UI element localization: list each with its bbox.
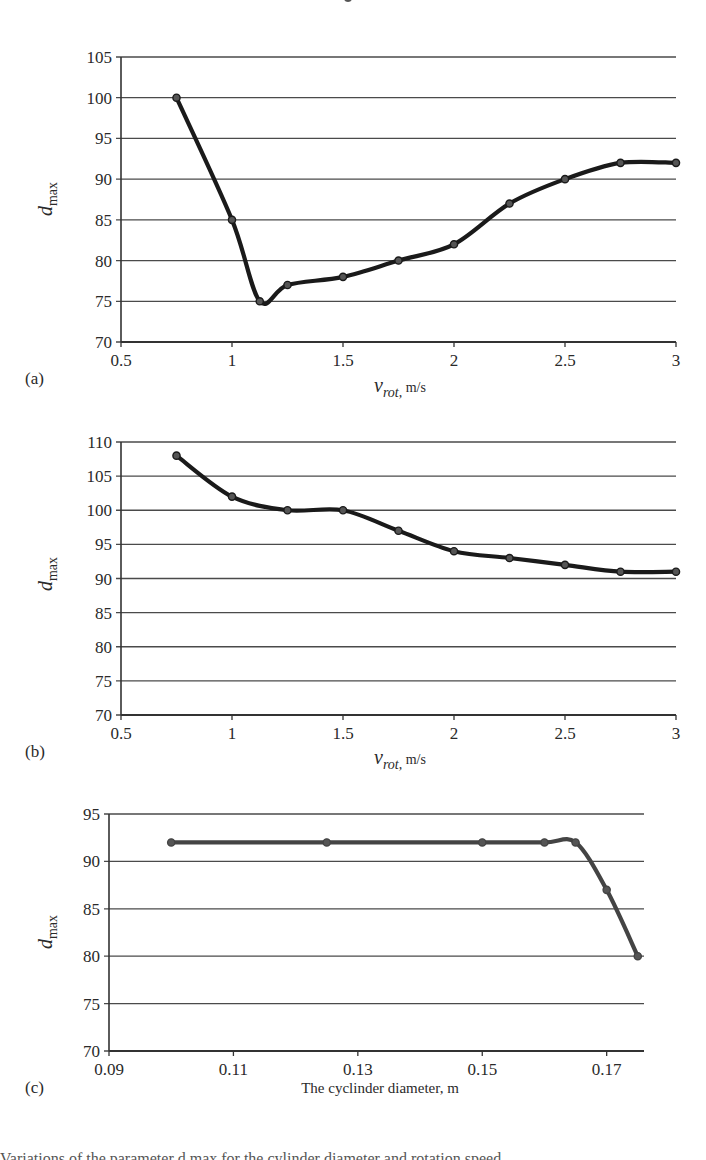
x-tick-label: 1	[228, 724, 237, 743]
data-point-marker	[506, 554, 513, 561]
data-point-marker	[541, 839, 548, 846]
y-tick-label: 75	[95, 292, 112, 311]
x-axis-title: The cyclinder diameter, m	[301, 1080, 459, 1096]
chart-panel-c: 7075808590950.090.110.130.150.17dmaxThe …	[25, 805, 644, 1097]
y-tick-label: 105	[87, 48, 113, 67]
panel-label: (b)	[25, 742, 45, 761]
x-axis-title: vrot, m/s	[374, 374, 426, 400]
data-point-marker	[339, 273, 346, 280]
chart-panel-a: 7075808590951001050.511.522.53dmaxvrot, …	[25, 48, 680, 400]
x-tick-label: 3	[672, 351, 681, 370]
data-point-marker	[339, 507, 346, 514]
panel-label: (c)	[25, 1078, 44, 1097]
x-tick-label: 3	[672, 724, 681, 743]
y-tick-label: 90	[83, 852, 100, 871]
y-tick-label: 110	[87, 433, 112, 452]
data-point-marker	[284, 281, 291, 288]
y-tick-label: 95	[95, 535, 112, 554]
data-point-marker	[603, 886, 610, 893]
data-point-marker	[450, 548, 457, 555]
panel-label: (a)	[25, 369, 44, 388]
data-point-marker	[395, 527, 402, 534]
y-tick-label: 85	[95, 211, 112, 230]
data-point-marker	[173, 94, 180, 101]
figure-caption-fragment: Variations of the parameter d max for th…	[0, 1150, 706, 1160]
x-tick-label: 0.17	[592, 1060, 622, 1079]
data-point-marker	[168, 839, 175, 846]
data-point-marker	[228, 216, 235, 223]
x-axis-title: vrot, m/s	[374, 746, 426, 772]
data-point-marker	[450, 241, 457, 248]
x-tick-label: 0.09	[94, 1060, 124, 1079]
y-axis-title: dmax	[34, 557, 60, 591]
x-tick-label: 0.11	[219, 1060, 248, 1079]
y-tick-label: 80	[95, 252, 112, 271]
x-tick-label: 1	[228, 351, 237, 370]
data-point-marker	[395, 257, 402, 264]
x-tick-label: 2	[450, 351, 459, 370]
y-tick-label: 90	[95, 570, 112, 589]
data-point-marker	[672, 568, 679, 575]
data-point-marker	[634, 953, 641, 960]
y-tick-label: 90	[95, 170, 112, 189]
y-axis-title: dmax	[34, 182, 60, 216]
x-tick-label: 0.5	[110, 351, 131, 370]
y-tick-label: 85	[83, 900, 100, 919]
y-tick-label: 95	[83, 805, 100, 824]
data-line	[171, 839, 638, 956]
chart-panel-b: 7075808590951001051100.511.522.53dmaxvro…	[25, 433, 680, 772]
y-tick-label: 100	[87, 501, 113, 520]
data-point-marker	[561, 561, 568, 568]
data-point-marker	[672, 159, 679, 166]
y-tick-label: 75	[83, 995, 100, 1014]
data-line	[177, 98, 677, 304]
data-point-marker	[479, 839, 486, 846]
x-tick-label: 1.5	[332, 351, 353, 370]
data-point-marker	[617, 159, 624, 166]
x-tick-label: 2.5	[554, 724, 575, 743]
data-point-marker	[323, 839, 330, 846]
data-point-marker	[617, 568, 624, 575]
data-point-marker	[256, 298, 263, 305]
y-tick-label: 70	[83, 1042, 100, 1061]
x-tick-label: 0.13	[343, 1060, 373, 1079]
x-tick-label: 2.5	[554, 351, 575, 370]
x-tick-label: 2	[450, 724, 459, 743]
y-tick-label: 75	[95, 672, 112, 691]
data-point-marker	[561, 176, 568, 183]
x-tick-label: 0.15	[467, 1060, 497, 1079]
y-tick-label: 70	[95, 333, 112, 352]
y-tick-label: 80	[83, 947, 100, 966]
y-tick-label: 80	[95, 638, 112, 657]
x-tick-label: 0.5	[110, 724, 131, 743]
y-axis-title: dmax	[34, 915, 60, 949]
data-point-marker	[572, 839, 579, 846]
y-tick-label: 85	[95, 604, 112, 623]
y-tick-label: 100	[87, 89, 113, 108]
y-tick-label: 70	[95, 706, 112, 725]
data-point-marker	[506, 200, 513, 207]
data-point-marker	[284, 507, 291, 514]
data-line	[177, 456, 677, 573]
x-tick-label: 1.5	[332, 724, 353, 743]
y-tick-label: 105	[87, 467, 113, 486]
data-point-marker	[173, 452, 180, 459]
data-point-marker	[228, 493, 235, 500]
y-tick-label: 95	[95, 129, 112, 148]
